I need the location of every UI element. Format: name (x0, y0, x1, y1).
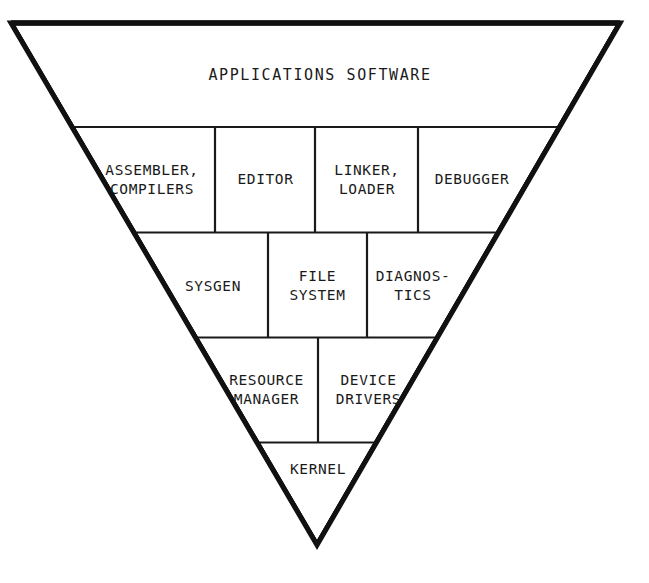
pyramid-graphic (0, 0, 649, 583)
software-layers-pyramid-diagram: APPLICATIONS SOFTWARE ASSEMBLER, COMPILE… (0, 0, 649, 583)
